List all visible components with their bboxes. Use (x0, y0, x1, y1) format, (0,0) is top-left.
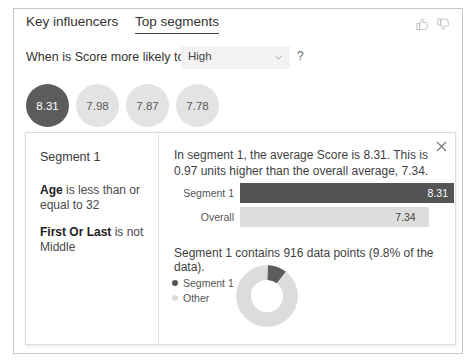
segment-bubbles: 8.31 7.98 7.87 7.78 (14, 81, 462, 129)
bar-fill (240, 183, 454, 203)
segment-summary-text: In segment 1, the average Score is 8.31.… (174, 148, 434, 179)
segment-bubble[interactable]: 8.31 (26, 84, 69, 127)
bar-row[interactable]: Segment 1 8.31 (174, 183, 454, 203)
tab-bar: Key influencers Top segments (14, 9, 462, 41)
segment-rule-field: Age (40, 183, 63, 197)
legend-label: Segment 1 (183, 277, 234, 289)
bar-track: 7.34 (240, 207, 454, 227)
bar-value: 7.34 (395, 211, 415, 223)
key-influencers-visual: Key influencers Top segments When is Sco… (13, 8, 463, 354)
average-comparison-bar-chart: Segment 1 8.31 Overall 7.34 (174, 183, 454, 231)
segment-rule-field: First Or Last (40, 225, 111, 239)
legend-dot-icon (172, 280, 178, 286)
segment-share-donut-chart: Segment 1 Other (160, 265, 455, 335)
question-label: When is Score more likely to be (26, 50, 202, 64)
segment-bubble[interactable]: 7.78 (176, 84, 219, 127)
tab-key-influencers[interactable]: Key influencers (26, 14, 118, 33)
legend-item[interactable]: Segment 1 (172, 277, 234, 289)
segment-rule: First Or Last is not Middle (40, 225, 144, 255)
bar-label: Segment 1 (174, 187, 234, 199)
segment-bubble[interactable]: 7.98 (76, 84, 119, 127)
segment-rules-panel: Segment 1 Age is less than or equal to 3… (26, 133, 159, 344)
level-select-value: High (188, 50, 212, 62)
segment-rule: Age is less than or equal to 32 (40, 183, 144, 213)
legend-dot-icon (172, 295, 178, 301)
donut-svg (236, 265, 298, 327)
donut-legend: Segment 1 Other (172, 277, 234, 307)
thumbs-up-icon[interactable] (415, 17, 430, 32)
bar-value: 8.31 (428, 187, 448, 199)
tab-top-segments[interactable]: Top segments (135, 14, 219, 34)
segment-bubble[interactable]: 7.87 (126, 84, 169, 127)
help-icon[interactable]: ? (297, 49, 304, 63)
segment-detail-card: Segment 1 Age is less than or equal to 3… (25, 132, 456, 345)
thumbs-down-icon[interactable] (436, 17, 451, 32)
question-row: When is Score more likely to be High ? (14, 45, 462, 71)
legend-label: Other (183, 292, 209, 304)
segment-title: Segment 1 (40, 150, 144, 164)
bar-track: 8.31 (240, 183, 454, 203)
bar-row[interactable]: Overall 7.34 (174, 207, 454, 227)
level-select[interactable]: High (181, 46, 290, 69)
legend-item[interactable]: Other (172, 292, 234, 304)
chevron-down-icon (274, 53, 283, 62)
bar-label: Overall (174, 211, 234, 223)
segment-summary-panel: In segment 1, the average Score is 8.31.… (160, 133, 455, 344)
